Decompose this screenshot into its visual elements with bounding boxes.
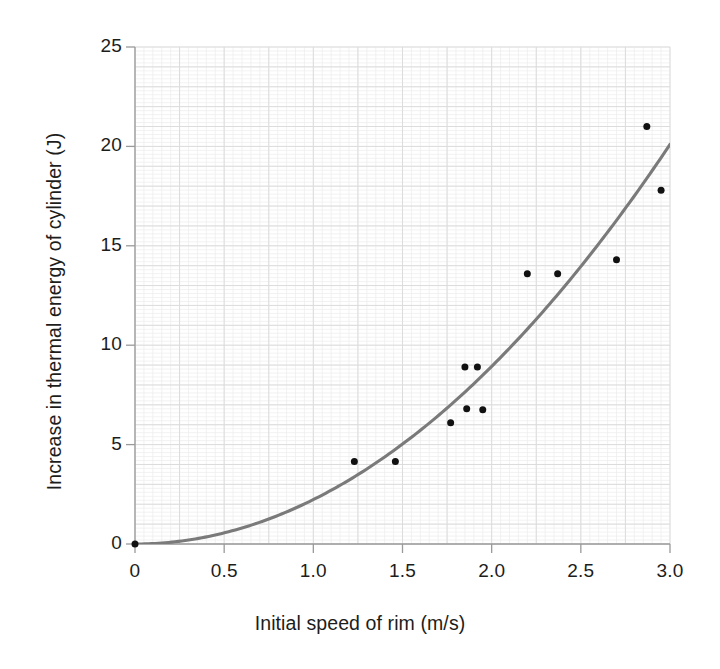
data-point: [474, 364, 481, 371]
x-tick-label: 2.5: [551, 560, 611, 582]
data-point: [658, 187, 665, 194]
x-tick-label: 1.0: [283, 560, 343, 582]
data-point: [554, 270, 561, 277]
x-axis-title: Initial speed of rim (m/s): [0, 612, 720, 635]
x-tick-label: 0.5: [194, 560, 254, 582]
y-tick-label: 20: [78, 134, 122, 156]
data-point: [524, 270, 531, 277]
data-point: [643, 123, 650, 130]
y-tick-label: 25: [78, 35, 122, 57]
data-point: [463, 405, 470, 412]
scatter-chart-figure: 0510152025 00.51.01.52.02.53.0 Initial s…: [0, 0, 720, 669]
x-tick-label: 1.5: [373, 560, 433, 582]
y-tick-label: 5: [78, 433, 122, 455]
x-tick-label: 3.0: [640, 560, 700, 582]
y-tick-label: 15: [78, 234, 122, 256]
y-axis-title: Increase in thermal energy of cylinder (…: [43, 82, 66, 542]
data-point: [132, 541, 139, 548]
data-point: [392, 458, 399, 465]
x-tick-label: 0: [105, 560, 165, 582]
data-point: [479, 406, 486, 413]
y-tick-label: 0: [78, 532, 122, 554]
data-point: [613, 256, 620, 263]
x-tick-label: 2.0: [462, 560, 522, 582]
data-point: [447, 419, 454, 426]
y-tick-label: 10: [78, 333, 122, 355]
data-point: [351, 458, 358, 465]
data-point: [461, 364, 468, 371]
